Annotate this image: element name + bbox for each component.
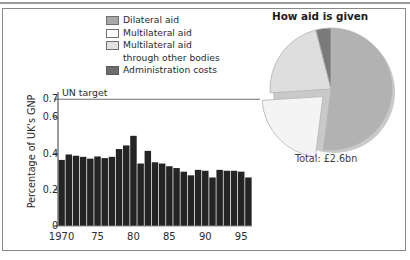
- legend-label-multilateral-other: Multilateral aid: [123, 39, 192, 52]
- legend-item-multilateral: Multilateral aid: [106, 27, 246, 40]
- bar: [66, 154, 72, 226]
- x-tick-label: 85: [163, 231, 176, 242]
- bar: [152, 162, 158, 226]
- multilateral-other-swatch-icon: [106, 41, 119, 50]
- legend-label-bilateral: Dilateral aid: [123, 14, 179, 27]
- y-tick-label: 0.7: [32, 93, 58, 104]
- x-tick-label: 90: [199, 231, 212, 242]
- bar: [123, 145, 129, 226]
- pie-chart-svg: [256, 22, 406, 162]
- bilateral-swatch-icon: [106, 16, 119, 25]
- legend-item-multilateral-other: Multilateral aid: [106, 39, 246, 52]
- bar: [94, 156, 100, 226]
- bar: [224, 171, 230, 226]
- pie-chart-block: How aid is given Total: £2.6bn: [256, 10, 406, 185]
- multilateral-swatch-icon: [106, 29, 119, 38]
- y-tick-label: 0: [32, 220, 58, 231]
- un-target-label: UN target: [62, 87, 107, 98]
- bar: [238, 172, 244, 226]
- bar: [181, 172, 187, 226]
- y-tick-label: 0.6: [32, 111, 58, 122]
- bar: [209, 177, 215, 226]
- bar: [195, 170, 201, 226]
- bar: [231, 171, 237, 226]
- bar: [58, 160, 64, 226]
- pie-slice: [323, 28, 392, 150]
- bar: [80, 157, 86, 226]
- y-axis-ticks: 00.20.40.60.7: [32, 88, 58, 248]
- y-tick-label: 0.2: [32, 184, 58, 195]
- top-divider-rule: [0, 2, 410, 4]
- bar-chart-block: Percentage of UK's GNP 00.20.40.60.7 197…: [10, 88, 260, 248]
- legend-item-bilateral: Dilateral aid: [106, 14, 246, 27]
- bar: [145, 151, 151, 226]
- chart-legend: Dilateral aid Multilateral aid Multilate…: [106, 14, 246, 77]
- x-tick-label: 1970: [49, 231, 74, 242]
- x-tick-label: 80: [127, 231, 140, 242]
- admin-swatch-icon: [106, 66, 119, 75]
- legend-label-multilateral: Multilateral aid: [123, 27, 192, 40]
- legend-item-admin: Administration costs: [106, 64, 246, 77]
- x-tick-label: 95: [235, 231, 248, 242]
- bar: [173, 168, 179, 226]
- bar: [188, 175, 194, 226]
- pie-chart-title: How aid is given: [272, 10, 368, 22]
- bar: [216, 170, 222, 226]
- pie-slice: [262, 97, 323, 158]
- bar: [73, 156, 79, 226]
- legend-label-multilateral-other-continued: through other bodies: [123, 52, 220, 65]
- bar: [245, 177, 251, 226]
- y-tick-label: 0.4: [32, 148, 58, 159]
- bar: [130, 136, 136, 226]
- bar: [202, 171, 208, 226]
- bar: [137, 164, 143, 226]
- bar: [116, 149, 122, 226]
- pie-total-annotation: Total: £2.6bn: [295, 153, 357, 164]
- aid-statistics-figure: Dilateral aid Multilateral aid Multilate…: [0, 0, 410, 260]
- legend-label-admin: Administration costs: [123, 64, 217, 77]
- bar: [159, 164, 165, 226]
- bar: [166, 166, 172, 226]
- bar: [87, 159, 93, 226]
- x-tick-label: 75: [91, 231, 104, 242]
- bar: [101, 158, 107, 226]
- legend-item-multilateral-other-cont: through other bodies: [106, 52, 246, 65]
- bar: [109, 157, 115, 226]
